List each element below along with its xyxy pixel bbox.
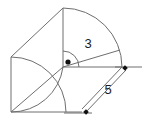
slant-edge-line bbox=[11, 8, 63, 57]
arrow-marker-upper bbox=[122, 65, 128, 71]
square-inner-arcs bbox=[11, 57, 66, 112]
upper-left-slant-edge bbox=[11, 8, 63, 57]
square-outline bbox=[11, 57, 82, 112]
radius-line-3 bbox=[63, 50, 120, 67]
center-point-dot bbox=[65, 59, 70, 64]
geometry-diagram: 3 5 bbox=[0, 0, 146, 122]
square-left-bottom-edges bbox=[11, 57, 82, 112]
side-label-5: 5 bbox=[104, 82, 111, 97]
dimension-stroke-b bbox=[82, 67, 122, 109]
geometry-figure-container: 3 5 bbox=[0, 0, 146, 122]
radius-segment bbox=[63, 50, 120, 67]
radius-label-3: 3 bbox=[84, 36, 91, 51]
dimension-extension-lines bbox=[64, 67, 142, 113]
